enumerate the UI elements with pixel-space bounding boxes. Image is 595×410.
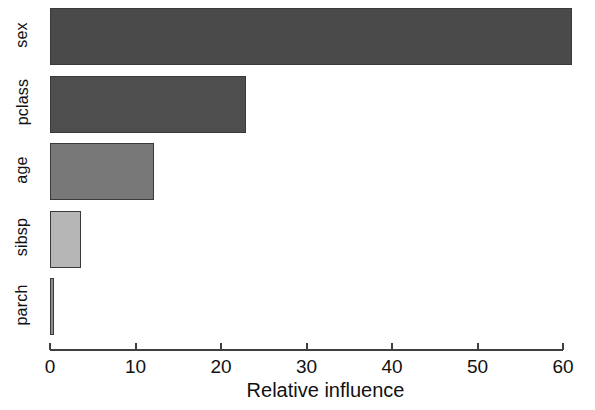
x-axis-tick-label-50: 50 <box>454 356 502 378</box>
y-axis-label-text: sex <box>13 22 31 48</box>
x-axis-tick-20 <box>220 343 222 350</box>
x-axis-tick-50 <box>477 343 479 350</box>
x-axis-tick-label-40: 40 <box>368 356 416 378</box>
y-axis-label-parch: parch <box>0 296 44 314</box>
x-axis-tick-60 <box>562 343 564 350</box>
x-axis-tick-label-20: 20 <box>197 356 245 378</box>
y-axis-label-sex: sex <box>0 26 44 44</box>
bar-age <box>50 143 154 200</box>
x-axis-tick-40 <box>391 343 393 350</box>
y-axis-label-text: parch <box>13 284 31 325</box>
x-axis-tick-0 <box>49 343 51 350</box>
y-axis-label-age: age <box>0 161 44 179</box>
y-axis-label-pclass: pclass <box>0 93 44 111</box>
x-axis-title: Relative influence <box>0 379 595 402</box>
x-axis-tick-label-0: 0 <box>26 356 74 378</box>
y-axis-label-text: sibsp <box>13 218 31 256</box>
y-axis-label-text: pclass <box>14 79 32 126</box>
plot-area <box>50 0 595 348</box>
y-axis-label-sibsp: sibsp <box>0 228 44 246</box>
x-axis-tick-30 <box>306 343 308 350</box>
y-axis-category-labels: sexpclassagesibspparch <box>0 0 48 348</box>
y-axis-label-text: age <box>13 156 31 183</box>
relative-influence-bar-chart: sexpclassagesibspparch 0102030405060 Rel… <box>0 0 595 410</box>
x-axis-tick-10 <box>135 343 137 350</box>
x-axis-tick-label-60: 60 <box>539 356 587 378</box>
x-axis-tick-label-10: 10 <box>112 356 160 378</box>
x-axis-tick-label-30: 30 <box>283 356 331 378</box>
bar-sex <box>50 8 572 65</box>
bar-pclass <box>50 76 246 133</box>
bar-sibsp <box>50 211 81 268</box>
bar-parch <box>50 278 54 335</box>
